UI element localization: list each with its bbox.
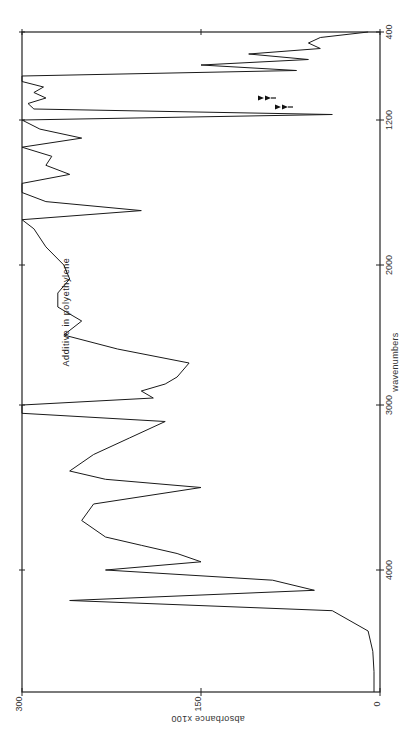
ir-spectrum-chart: 4000300020001200400 3001500 wavenumbers … xyxy=(0,0,413,737)
plot-frame xyxy=(22,32,380,692)
wavenumber-ticks: 4000300020001200400 xyxy=(19,24,394,580)
absorbance-ticks: 3001500 xyxy=(14,29,382,712)
spectrum-trace xyxy=(22,32,374,692)
absorbance-tick-label: 150 xyxy=(193,696,203,711)
absorbance-tick-label: 0 xyxy=(372,701,382,706)
peak-arrow-markers xyxy=(258,96,293,110)
y-axis-label: absorbance x100 xyxy=(171,714,245,724)
wavenumber-tick-label: 400 xyxy=(384,24,394,39)
wavenumber-tick-label: 3000 xyxy=(384,395,394,415)
arrow-icon xyxy=(275,105,293,110)
wavenumber-tick-label: 2000 xyxy=(384,255,394,275)
x-axis-label: wavenumbers xyxy=(390,332,400,393)
wavenumber-tick-label: 4000 xyxy=(384,560,394,580)
annotation-label: Additive in polyethylene xyxy=(61,258,71,367)
wavenumber-tick-label: 1200 xyxy=(384,110,394,130)
absorbance-tick-label: 300 xyxy=(14,696,24,711)
arrow-icon xyxy=(258,96,276,101)
